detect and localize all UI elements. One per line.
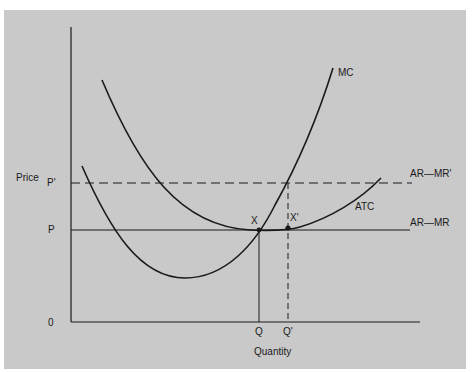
point-x: [257, 228, 262, 233]
p-tick-label: P: [48, 224, 55, 235]
ar-mr-prime-label: AR—MR': [410, 168, 451, 179]
q-prime-tick-label: Q': [283, 326, 293, 337]
atc-curve: [102, 80, 381, 230]
ar-mr-label: AR—MR: [410, 217, 449, 228]
x-axis-label: Quantity: [254, 346, 291, 357]
origin-label: 0: [48, 317, 54, 328]
atc-label: ATC: [355, 201, 374, 212]
point-x-prime-label: X': [290, 212, 299, 223]
cost-curves-diagram: Price P' P 0 Q Q' Quantity MC ATC AR—MR'…: [0, 0, 473, 372]
point-x-label: X: [251, 215, 258, 226]
q-tick-label: Q: [255, 326, 263, 337]
y-axis-label: Price: [16, 172, 39, 183]
p-prime-tick-label: P': [47, 177, 56, 188]
mc-curve: [82, 68, 333, 278]
point-x-prime: [285, 225, 290, 230]
mc-label: MC: [338, 67, 354, 78]
